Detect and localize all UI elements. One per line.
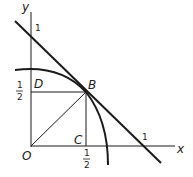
y-axis-label: y: [21, 0, 30, 14]
x-axis-label: x: [176, 142, 185, 156]
point-o-label: O: [22, 149, 31, 163]
point-d-label: D: [34, 77, 43, 91]
point-c-label: C: [74, 133, 83, 147]
y-tick-one: 1: [35, 23, 41, 33]
diagram-canvas: y x O B C D 1 1 1 2 1 2: [0, 0, 193, 177]
point-b-label: B: [88, 78, 96, 92]
y-half-numerator: 1: [17, 80, 23, 90]
y-half-denominator: 2: [17, 92, 23, 102]
x-tick-one: 1: [142, 132, 148, 142]
x-half-denominator: 2: [84, 160, 90, 170]
x-half-numerator: 1: [84, 148, 90, 158]
